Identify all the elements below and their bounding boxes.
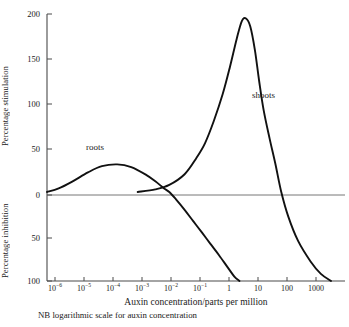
y-tick-label-50: 50: [14, 144, 40, 154]
x-tick-label-1e-3: 10−3: [135, 284, 149, 293]
x-tick-label-1e-6: 10−6: [48, 284, 62, 293]
curve-annotation-shoots: shoots: [252, 90, 275, 100]
curve-shoots: [138, 18, 331, 281]
y-tick-label-200: 200: [14, 9, 40, 19]
x-axis-ticks: [55, 277, 316, 281]
y-axis-ticks: [47, 14, 52, 281]
y-tick-label-0: 0: [14, 190, 40, 200]
y-tick-label-inhibition-50: 50: [14, 233, 40, 243]
y-tick-label-100: 100: [14, 99, 40, 109]
curve-annotation-roots: roots: [86, 142, 104, 152]
plot-canvas: [0, 0, 349, 327]
x-tick-label-1e-5: 10−5: [77, 284, 91, 293]
y-tick-label-150: 150: [14, 54, 40, 64]
x-tick-label-100: 100: [281, 284, 293, 293]
x-tick-label-10: 10: [254, 284, 262, 293]
x-tick-label-1000: 1000: [308, 284, 324, 293]
auxin-concentration-chart: Percentage stimulation Percentage inhibi…: [0, 0, 349, 327]
curve-roots: [47, 164, 240, 281]
x-tick-label-1: 1: [227, 284, 231, 293]
y-tick-label-inhibition-100: 100: [14, 276, 40, 286]
x-axis-note: NB logarithmic scale for auxin concentra…: [38, 310, 197, 320]
x-axis-title: Auxin concentration/parts per million: [47, 297, 345, 307]
x-tick-label-1e-2: 10−2: [164, 284, 178, 293]
x-tick-label-1e-1: 10−1: [193, 284, 207, 293]
x-tick-label-1e-4: 10−4: [106, 284, 120, 293]
